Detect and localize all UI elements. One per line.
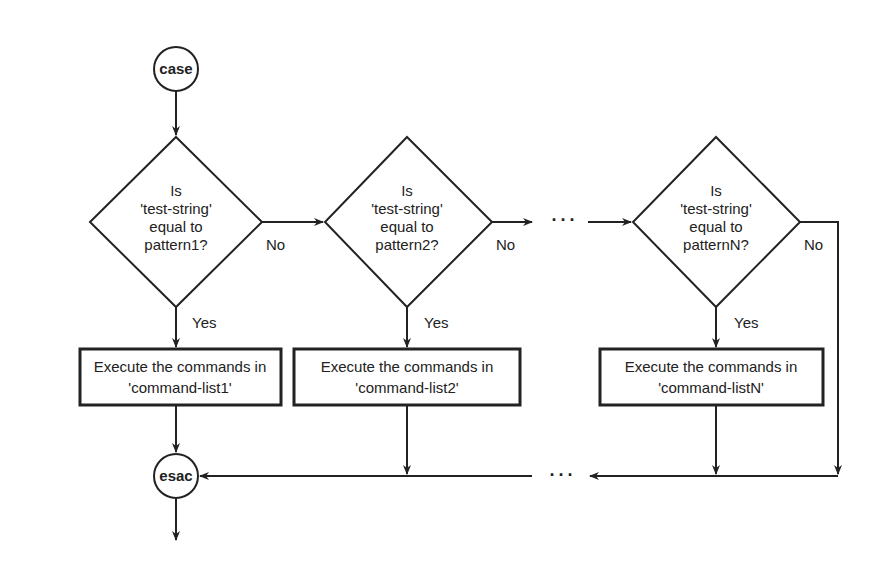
actionN-line2: 'command-listN' [658,379,764,396]
action-node-n: Execute the commands in 'command-listN' [600,349,823,405]
ellipsis-bottom: ··· [550,465,577,485]
decisionN-no-label: No [804,236,823,253]
start-node-case: case [154,47,198,91]
action-node-2: Execute the commands in 'command-list2' [294,349,520,405]
decisionN-line2: 'test-string' [680,200,752,217]
decisionN-yes-label: Yes [734,314,758,331]
decision1-no-label: No [266,236,285,253]
action1-line2: 'command-list1' [128,379,231,396]
end-node-esac: esac [154,454,198,498]
ellipsis-top: ··· [552,210,579,230]
decision2-yes-label: Yes [424,314,448,331]
decisionN-line3: equal to [689,218,742,235]
decision2-line3: equal to [380,218,433,235]
decision1-line2: 'test-string' [140,200,212,217]
action2-line1: Execute the commands in [321,358,494,375]
decision-node-n: Is 'test-string' equal to patternN? [633,137,800,307]
decision1-line3: equal to [149,218,202,235]
actionN-line1: Execute the commands in [625,358,798,375]
start-label: case [159,60,192,77]
end-label: esac [159,467,192,484]
decision2-line2: 'test-string' [371,200,443,217]
decision2-no-label: No [496,236,515,253]
decisionN-line1: Is [710,182,722,199]
action1-line1: Execute the commands in [94,358,267,375]
decision-node-2: Is 'test-string' equal to pattern2? [325,137,492,307]
decision-node-1: Is 'test-string' equal to pattern1? [90,137,262,307]
decisionN-line4: patternN? [683,236,749,253]
decision2-line1: Is [401,182,413,199]
decision2-line4: pattern2? [375,236,438,253]
decision1-line1: Is [170,182,182,199]
action-node-1: Execute the commands in 'command-list1' [80,349,281,405]
decision1-yes-label: Yes [192,314,216,331]
case-flowchart: case Is 'test-string' equal to pattern1?… [0,0,880,568]
action2-line2: 'command-list2' [355,379,458,396]
decision1-line4: pattern1? [144,236,207,253]
